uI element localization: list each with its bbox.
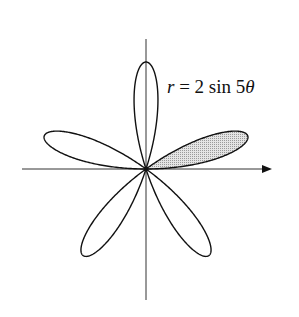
x-axis-arrowhead-icon	[262, 165, 272, 173]
equation-label: r = 2 sin 5θ	[167, 76, 255, 98]
equation-body: = 2 sin 5	[174, 76, 245, 97]
equation-var-theta: θ	[245, 76, 254, 97]
polar-rose-figure	[0, 0, 299, 317]
